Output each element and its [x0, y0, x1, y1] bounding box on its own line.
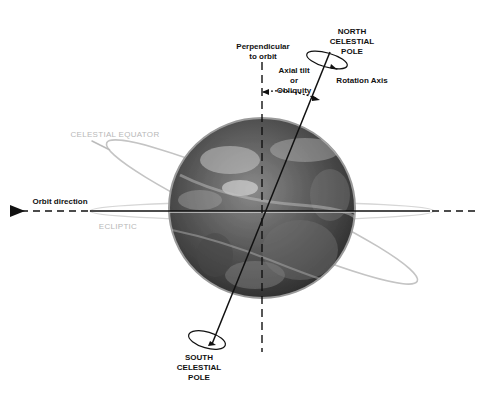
label-line: CELESTIAL [322, 37, 382, 47]
orbit-direction-label: Orbit direction [30, 197, 90, 207]
label-line: POLE [322, 47, 382, 57]
label-line: Perpendicular [228, 42, 298, 52]
label-line: or [270, 76, 318, 86]
axial-tilt-diagram: NORTH CELESTIAL POLE Perpendicular to or… [0, 0, 492, 394]
axial-tilt-label: Axial tilt or Obliquity [270, 66, 318, 96]
south-pole-rotation-icon [187, 327, 228, 353]
label-line: to orbit [228, 52, 298, 62]
rotation-axis-label: Rotation Axis [322, 76, 402, 86]
label-line: NORTH [322, 27, 382, 37]
south-celestial-pole-label: SOUTH CELESTIAL POLE [169, 353, 229, 383]
label-line: CELESTIAL [169, 363, 229, 373]
north-celestial-pole-label: NORTH CELESTIAL POLE [322, 27, 382, 57]
label-line: Obliquity [270, 86, 318, 96]
earth-globe [168, 118, 358, 298]
label-line: Axial tilt [270, 66, 318, 76]
perpendicular-label: Perpendicular to orbit [228, 42, 298, 62]
celestial-equator-label: CELESTIAL EQUATOR [70, 130, 160, 140]
label-line: POLE [169, 373, 229, 383]
ecliptic-label: ECLIPTIC [98, 222, 138, 232]
label-line: SOUTH [169, 353, 229, 363]
